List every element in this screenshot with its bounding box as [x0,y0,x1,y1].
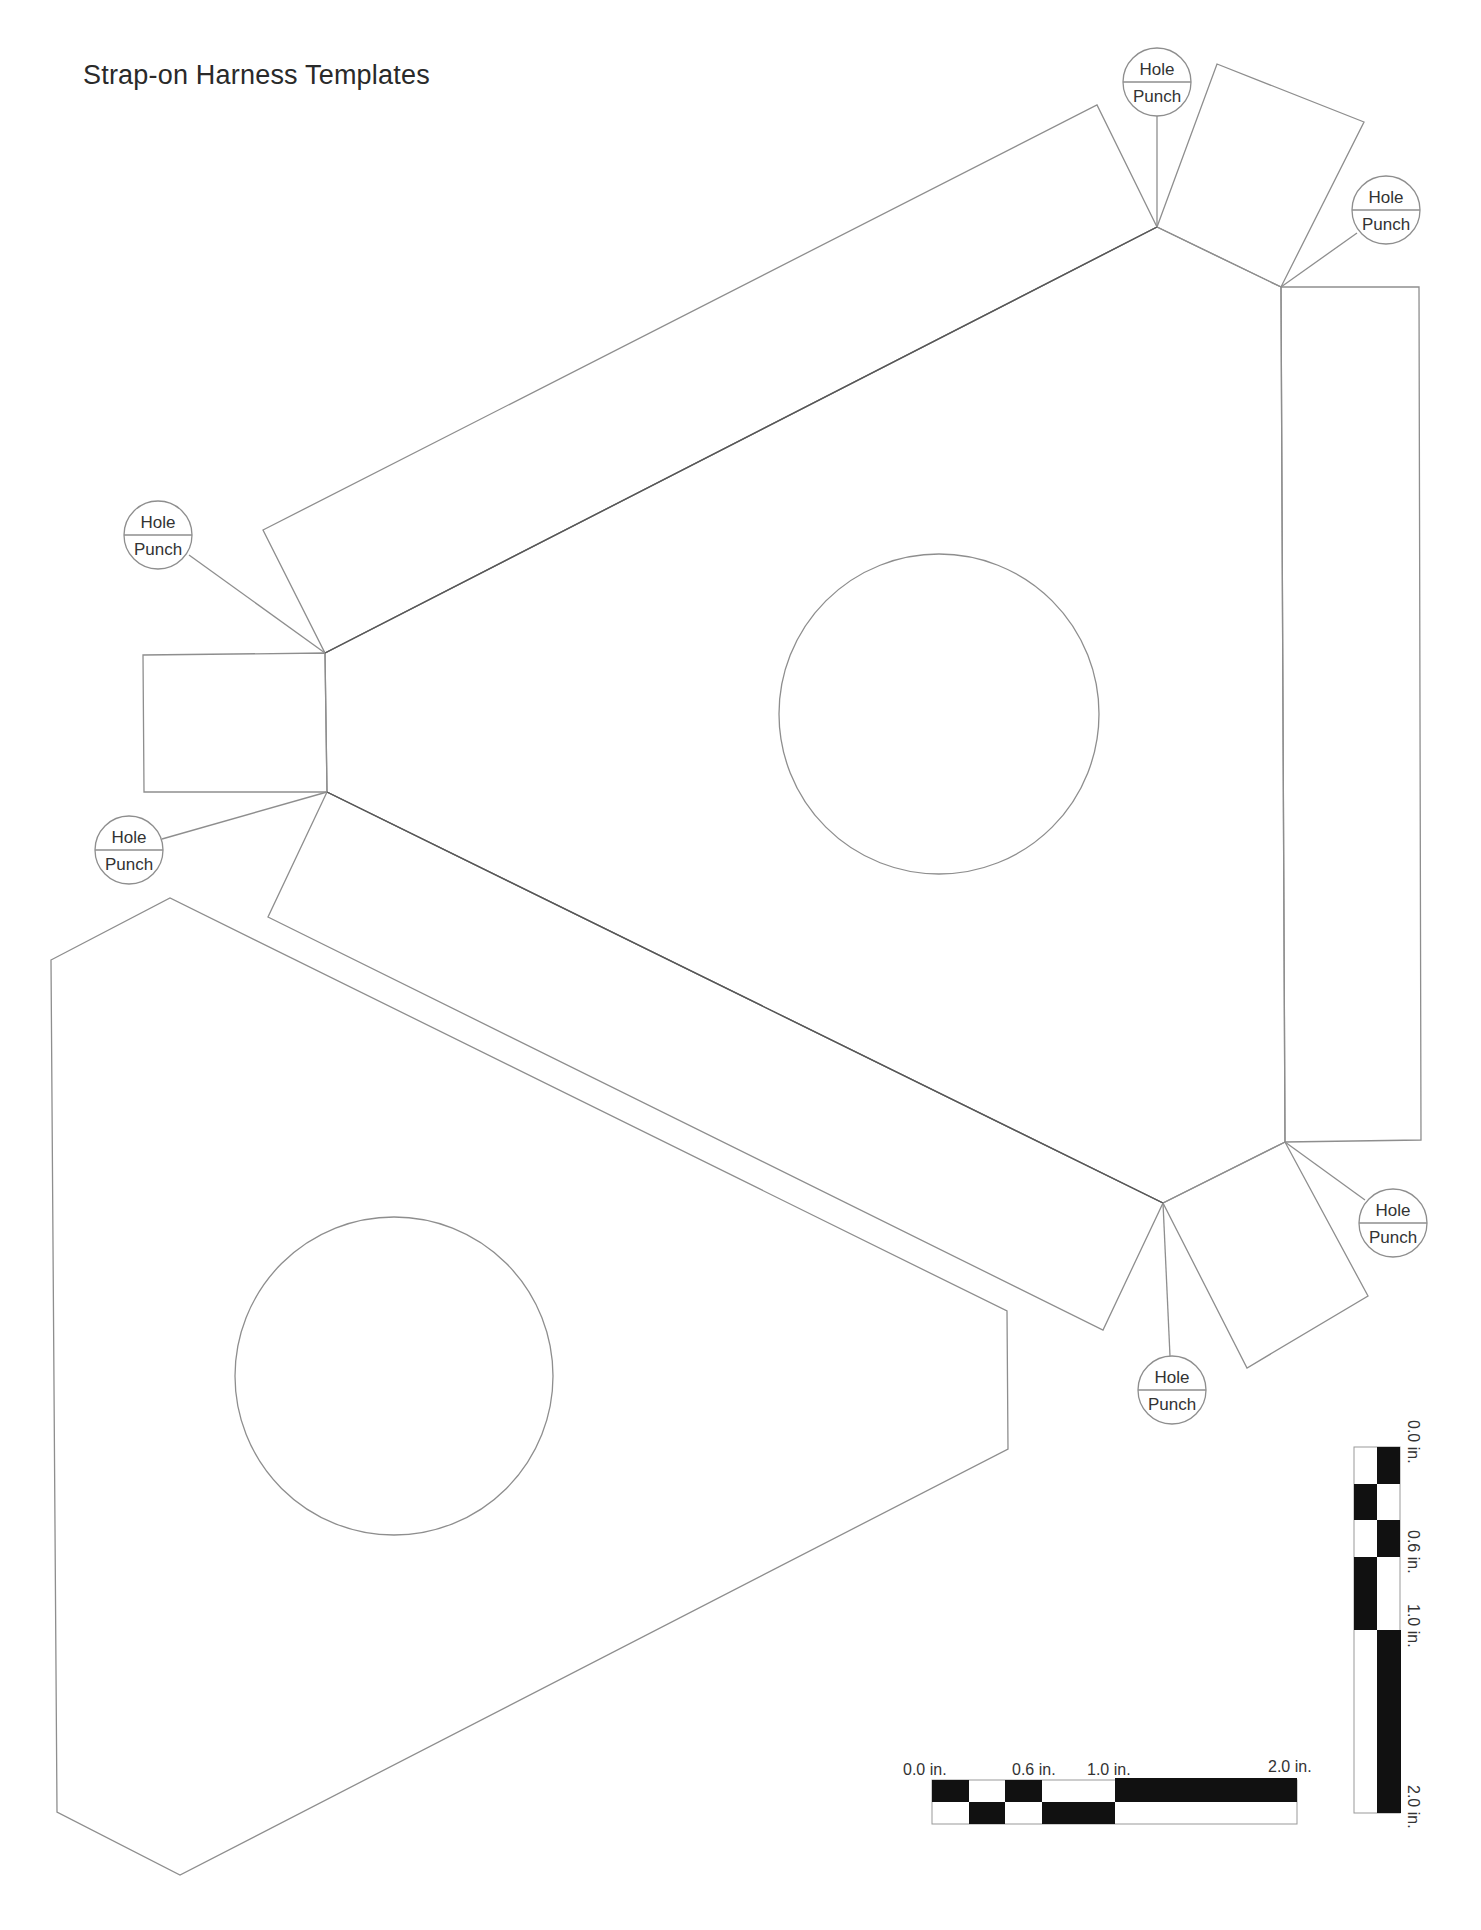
horizontal-scale-bar: 0.0 in. 0.6 in. 1.0 in. 2.0 in. [903,1758,1312,1824]
h-scale-label-0: 0.0 in. [903,1761,947,1778]
bottom-right-short-strap [1163,1142,1368,1368]
h-scale-label-1: 1.0 in. [1087,1761,1131,1778]
v-scale-label-1: 1.0 in. [1405,1604,1422,1648]
hole-punch-marker-1: Hole Punch [1123,48,1191,116]
vertical-scale-bar: 0.0 in. 0.6 in. 1.0 in. 2.0 in. [1354,1420,1422,1829]
v-scale-label-2: 2.0 in. [1405,1785,1422,1829]
upper-harness-piece [143,64,1421,1368]
top-right-short-strap [1157,64,1364,287]
hole-label: Hole [112,828,147,847]
template-sheet: Hole Punch Hole Punch Hole Punch Hole Pu… [0,0,1481,1930]
v-scale-label-06: 0.6 in. [1405,1530,1422,1574]
right-long-strap [1281,287,1421,1142]
fold-line-bottom [327,792,1163,1203]
lower-ring-cutout [235,1217,553,1535]
fold-line-top [325,227,1157,653]
punch-label: Punch [1148,1395,1196,1414]
punch-label: Punch [1133,87,1181,106]
punch-label: Punch [134,540,182,559]
hole-punch-marker-3: Hole Punch [124,501,192,569]
hole-label: Hole [1155,1368,1190,1387]
lower-hexagon-body [51,898,1008,1875]
v-scale-label-0: 0.0 in. [1405,1420,1422,1464]
hole-label: Hole [141,513,176,532]
hole-punch-marker-5: Hole Punch [1359,1189,1427,1257]
lower-harness-piece [51,898,1008,1875]
hole-label: Hole [1376,1201,1411,1220]
top-long-strap [263,105,1157,653]
punch-label: Punch [105,855,153,874]
punch-label: Punch [1362,215,1410,234]
left-short-strap [143,653,327,792]
hole-punch-marker-4: Hole Punch [95,816,163,884]
hole-punch-marker-2: Hole Punch [1352,176,1420,244]
hole-label: Hole [1369,188,1404,207]
punch-label: Punch [1369,1228,1417,1247]
upper-triangle-body [325,227,1285,1203]
hole-punch-leaders [162,116,1365,1356]
hole-label: Hole [1140,60,1175,79]
h-scale-label-2: 2.0 in. [1268,1758,1312,1775]
hole-punch-marker-6: Hole Punch [1138,1356,1206,1424]
h-scale-label-06: 0.6 in. [1012,1761,1056,1778]
lower-long-strap [268,792,1163,1330]
upper-ring-cutout [779,554,1099,874]
